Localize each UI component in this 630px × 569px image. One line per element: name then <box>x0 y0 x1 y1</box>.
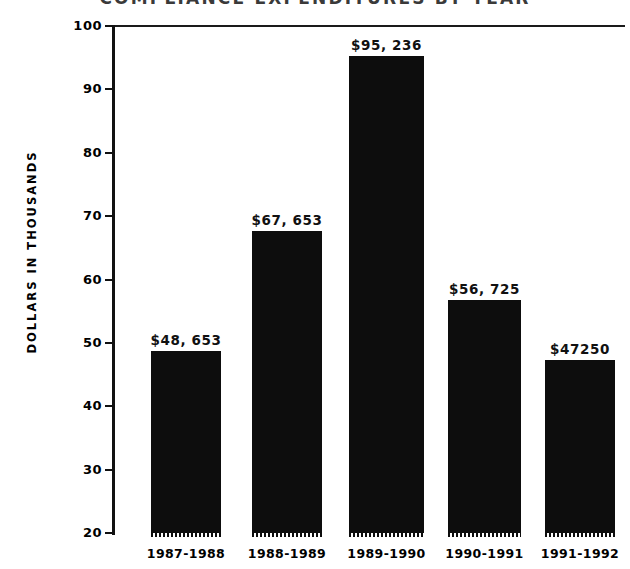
bar-value-label: $67, 653 <box>230 212 344 228</box>
y-axis-tick <box>105 469 114 471</box>
top-axis-line <box>112 25 625 27</box>
y-axis-tick-label: 20 <box>60 526 102 539</box>
bar-baseline-texture <box>252 532 322 537</box>
y-axis-tick-label: 50 <box>60 336 102 349</box>
y-axis-tick <box>105 532 114 534</box>
y-axis-tick <box>105 88 114 90</box>
y-axis-tick-label: 70 <box>60 209 102 222</box>
bar <box>349 56 424 533</box>
y-axis-tick <box>105 405 114 407</box>
y-axis-label: DOLLARS IN THOUSANDS <box>25 142 39 362</box>
y-axis-tick-label: 90 <box>60 82 102 95</box>
y-axis-tick-label: 40 <box>60 399 102 412</box>
bar <box>448 300 521 533</box>
bar-baseline-texture <box>545 532 615 537</box>
y-axis-tick-label: 30 <box>60 463 102 476</box>
y-axis-tick <box>105 279 114 281</box>
bar-chart: COMPLIANCE EXPENDITURES BY YEAR DOLLARS … <box>0 0 630 569</box>
bar-baseline-texture <box>151 532 221 537</box>
y-axis-tick-label: 60 <box>60 273 102 286</box>
bar-baseline-texture <box>448 532 521 537</box>
y-axis-tick-label: 100 <box>60 19 102 32</box>
y-axis-tick <box>105 215 114 217</box>
y-axis-tick <box>105 152 114 154</box>
bar-value-label: $95, 236 <box>327 37 446 53</box>
chart-title: COMPLIANCE EXPENDITURES BY YEAR <box>0 0 630 8</box>
y-axis-tick <box>105 25 114 27</box>
bar-value-label: $48, 653 <box>129 332 243 348</box>
bar-value-label: $47250 <box>523 341 630 357</box>
bar <box>151 351 221 533</box>
bar <box>545 360 615 533</box>
x-axis-tick-label: 1991-1992 <box>520 546 630 561</box>
y-axis-tick-label: 80 <box>60 146 102 159</box>
y-axis-tick <box>105 342 114 344</box>
bar-baseline-texture <box>349 532 424 537</box>
bar <box>252 231 322 533</box>
bar-value-label: $56, 725 <box>426 281 543 297</box>
